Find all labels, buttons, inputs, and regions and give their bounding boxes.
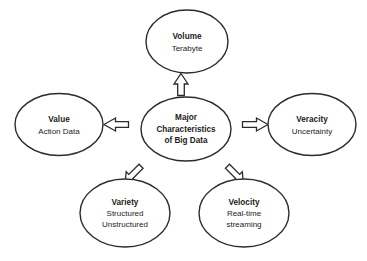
node-veracity-sub1: Uncertainty bbox=[292, 127, 332, 136]
node-velocity-sub1: Real-time bbox=[227, 209, 262, 218]
arrow-right-icon bbox=[243, 118, 269, 131]
node-volume[interactable]: Volume Terabyte bbox=[146, 10, 228, 73]
node-variety[interactable]: Variety Structured Unstructured bbox=[80, 179, 170, 247]
arrow-center-to-veracity bbox=[243, 118, 269, 131]
node-value[interactable]: Value Action Data bbox=[15, 94, 103, 156]
node-velocity-title: Velocity bbox=[229, 198, 260, 207]
node-velocity-sub2: streaming bbox=[226, 220, 261, 229]
node-veracity[interactable]: Veracity Uncertainty bbox=[268, 94, 356, 156]
arrow-up-icon bbox=[174, 74, 188, 96]
arrow-center-to-value bbox=[104, 118, 129, 131]
arrow-left-icon bbox=[104, 118, 129, 131]
node-veracity-title: Veracity bbox=[296, 115, 328, 124]
node-velocity[interactable]: Velocity Real-time streaming bbox=[199, 179, 289, 247]
big-data-characteristics-diagram: Volume Terabyte Value Action Data Veraci… bbox=[0, 0, 367, 261]
arrow-center-to-volume bbox=[174, 74, 188, 96]
node-variety-title: Variety bbox=[112, 198, 139, 207]
node-variety-sub1: Structured bbox=[107, 209, 144, 218]
node-value-ellipse bbox=[15, 94, 103, 156]
node-value-sub1: Action Data bbox=[38, 127, 80, 136]
node-volume-title: Volume bbox=[173, 32, 202, 41]
diagram-canvas: Volume Terabyte Value Action Data Veraci… bbox=[0, 0, 367, 261]
node-center-line3: of Big Data bbox=[164, 136, 208, 145]
node-variety-sub2: Unstructured bbox=[102, 220, 148, 229]
node-center-line1: Major bbox=[175, 113, 198, 122]
node-center-line2: Characteristics bbox=[156, 125, 216, 134]
node-volume-sub1: Terabyte bbox=[172, 44, 203, 53]
node-volume-ellipse bbox=[146, 10, 228, 73]
node-value-title: Value bbox=[48, 115, 70, 124]
node-veracity-ellipse bbox=[268, 94, 356, 156]
node-center-major-characteristics[interactable]: Major Characteristics of Big Data bbox=[141, 97, 231, 161]
